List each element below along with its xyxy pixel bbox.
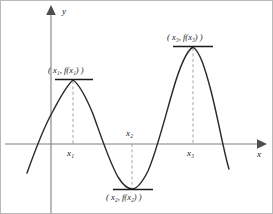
graph-canvas bbox=[1, 1, 273, 214]
x-tick-3: x₃ bbox=[187, 149, 194, 158]
point-label-1: ( x₁, f(x₁) ) bbox=[48, 66, 84, 75]
point-label-2: ( x₂, f(x₂) ) bbox=[106, 193, 142, 202]
y-axis-arrowhead bbox=[46, 5, 56, 15]
calculus-extrema-figure: y x x₁ x₂ x₃ ( x₁, f(x₁) ) ( x₂, f(x₂) )… bbox=[0, 0, 273, 214]
point-label-3: ( x₃, f(x₃) ) bbox=[167, 33, 203, 42]
x-axis-label: x bbox=[257, 150, 261, 159]
x-tick-2: x₂ bbox=[126, 129, 133, 138]
x-tick-1: x₁ bbox=[67, 149, 74, 158]
x-axis-arrowhead bbox=[257, 139, 267, 149]
y-axis-label: y bbox=[62, 7, 66, 16]
